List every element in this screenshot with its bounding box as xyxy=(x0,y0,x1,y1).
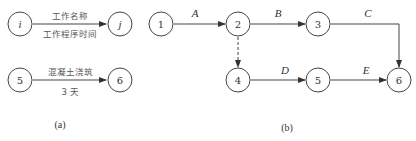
caption-a: (a) xyxy=(54,119,65,131)
example-label-task: 混凝土浇筑 xyxy=(48,67,93,77)
node-6-label: 6 xyxy=(396,75,402,86)
network-diagrams: i j 工作名称 工作程序时间 5 6 混凝土浇筑 3 天 (a) A B C … xyxy=(0,0,416,141)
edge-label-a: A xyxy=(191,7,199,19)
node-4-label: 4 xyxy=(235,75,241,86)
node-5-label: 5 xyxy=(315,75,321,86)
edge-label-d: D xyxy=(280,64,289,76)
diagram-b: A B C D E 1 2 3 4 5 6 (b) xyxy=(149,7,411,134)
node-1-label: 1 xyxy=(158,19,164,30)
node-2-label: 2 xyxy=(235,19,241,30)
diagram-a: i j 工作名称 工作程序时间 5 6 混凝土浇筑 3 天 (a) xyxy=(8,11,132,131)
example-arrow: 5 6 混凝土浇筑 3 天 xyxy=(8,67,132,97)
node-i-label: i xyxy=(18,18,21,30)
edge-label-b: B xyxy=(275,7,282,19)
edge-3-6 xyxy=(331,24,399,67)
edge-label-e: E xyxy=(362,64,370,76)
node-5a-label: 5 xyxy=(17,75,23,86)
edge-label-c: C xyxy=(364,7,372,19)
node-3-label: 3 xyxy=(315,19,321,30)
legend-label-work-name: 工作名称 xyxy=(52,11,88,21)
legend-label-work-time: 工作程序时间 xyxy=(43,29,97,39)
legend-arrow: i j 工作名称 工作程序时间 xyxy=(8,11,132,39)
example-label-duration: 3 天 xyxy=(61,87,78,97)
caption-b: (b) xyxy=(281,122,293,134)
node-6a-label: 6 xyxy=(117,75,123,86)
